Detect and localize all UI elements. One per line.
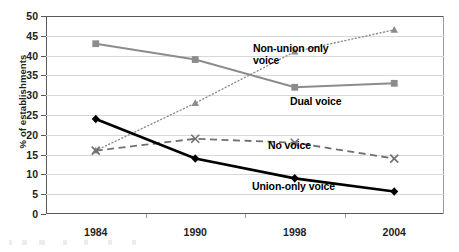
data-point-dual-voice-1984	[92, 40, 99, 47]
data-point-dual-voice-2004	[391, 80, 398, 87]
x-tick-label-1990: 1990	[184, 226, 207, 238]
series-label-union-only-voice: Union-only voice	[252, 181, 335, 193]
series-label-non-union-only-voice: Non-union only voice	[253, 43, 329, 67]
data-point-union-only-voice-2004	[390, 187, 398, 196]
x-tick-label-2004: 2004	[383, 226, 406, 238]
series-label-dual-voice: Dual voice	[290, 96, 342, 108]
scan-artifact	[6, 240, 156, 245]
y-tick-label-35: 35	[26, 69, 38, 81]
data-point-non-union-only-voice-2004	[391, 26, 398, 33]
data-point-no-voice-2004	[390, 155, 398, 163]
y-tick-label-45: 45	[26, 30, 38, 42]
x-tick-label-1998: 1998	[283, 226, 306, 238]
x-tick-minor-1	[245, 214, 246, 218]
y-tick-0	[41, 214, 46, 215]
series-line-union-only-voice	[96, 119, 395, 191]
data-point-non-union-only-voice-1990	[192, 99, 199, 106]
series-line-dual-voice	[96, 44, 395, 88]
series-line-non-union-only-voice	[96, 30, 395, 151]
x-tick-minor-2	[345, 214, 346, 218]
data-point-dual-voice-1998	[291, 84, 298, 91]
series-layer	[46, 16, 444, 214]
data-point-union-only-voice-1990	[191, 154, 199, 163]
line-chart: % of establishments 05101520253035404550…	[0, 0, 459, 252]
y-tick-label-50: 50	[26, 10, 38, 22]
y-tick-label-25: 25	[26, 109, 38, 121]
y-tick-label-15: 15	[26, 149, 38, 161]
y-tick-label-5: 5	[32, 188, 38, 200]
y-tick-label-0: 0	[32, 208, 38, 220]
x-tick-minor-0	[146, 214, 147, 218]
x-tick-label-1984: 1984	[84, 226, 107, 238]
y-tick-label-20: 20	[26, 129, 38, 141]
plot-area: 05101520253035404550 1984199019982004	[46, 16, 444, 214]
y-tick-label-10: 10	[26, 168, 38, 180]
y-tick-label-40: 40	[26, 50, 38, 62]
series-label-no-voice: No voice	[268, 140, 311, 152]
series-line-no-voice	[96, 139, 395, 159]
data-point-union-only-voice-1984	[92, 115, 100, 124]
data-point-dual-voice-1990	[192, 56, 199, 63]
y-tick-label-30: 30	[26, 89, 38, 101]
